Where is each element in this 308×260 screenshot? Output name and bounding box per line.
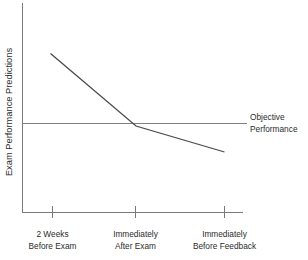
x-tick-label-2-line1: Immediately [113, 229, 159, 239]
x-tick-label-3-line1: Immediately [202, 229, 248, 239]
objective-performance-label-line2: Performance [250, 124, 298, 134]
x-tick-label-1-line1: 2 Weeks [36, 229, 68, 239]
x-tick-label-2-line2: After Exam [115, 241, 156, 251]
y-axis-title: Exam Performance Predictions [4, 48, 14, 176]
chart-figure: Exam Performance Predictions 2 Weeks Bef… [0, 0, 308, 260]
x-tick-label-3-line2: Before Feedback [193, 241, 257, 251]
exam-performance-predictions-line [51, 54, 225, 153]
line-chart-canvas: Exam Performance Predictions 2 Weeks Bef… [0, 0, 308, 260]
x-tick-label-1-line2: Before Exam [29, 241, 77, 251]
objective-performance-label-line1: Objective [250, 112, 285, 122]
